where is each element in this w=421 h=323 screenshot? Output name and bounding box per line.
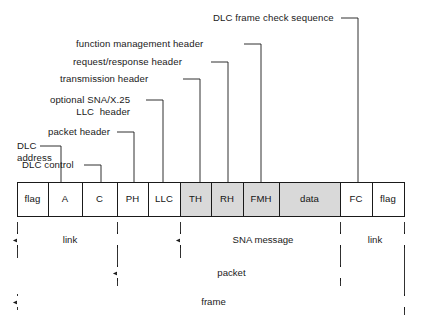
callout-label-request-response-header: request/response header bbox=[73, 56, 182, 68]
bracket-label-link-left: link bbox=[17, 234, 123, 245]
callout-label-line: request/response header bbox=[73, 56, 182, 68]
bracket-label-frame: frame bbox=[17, 296, 410, 307]
frame-field-label-fmh: FMH bbox=[243, 193, 279, 204]
frame-field-label-rh: RH bbox=[211, 193, 243, 204]
callout-label-line: DLC frame check sequence bbox=[213, 12, 334, 24]
figure-canvas: flagACPHLLCTHRHFMHdataFCflag DLCaddressD… bbox=[0, 0, 421, 323]
frame-field-label-c: C bbox=[82, 193, 117, 204]
bracket-label-text: packet bbox=[213, 267, 249, 278]
bracket-label-text: SNA message bbox=[229, 234, 298, 245]
bracket-label-text: link bbox=[59, 234, 81, 245]
callout-label-transmission-header: transmission header bbox=[60, 73, 148, 85]
leader-line-dlc-control bbox=[84, 165, 101, 182]
callout-label-packet-header: packet header bbox=[48, 126, 110, 138]
callout-label-line: function management header bbox=[76, 38, 203, 50]
bracket-label-text: frame bbox=[197, 296, 230, 307]
frame-field-label-data: data bbox=[279, 193, 340, 204]
callout-label-dlc-frame-check-sequence: DLC frame check sequence bbox=[213, 12, 334, 24]
callout-label-line: LLC header bbox=[50, 106, 130, 118]
bracket-label-text: link bbox=[364, 234, 386, 245]
callout-label-line: DLC bbox=[17, 140, 52, 152]
callout-label-dlc-control: DLC control bbox=[22, 159, 74, 171]
callout-label-line: packet header bbox=[48, 126, 110, 138]
leader-line-dlc-frame-check-sequence bbox=[341, 18, 358, 182]
callout-label-line: transmission header bbox=[60, 73, 148, 85]
bracket-label-link-right: link bbox=[340, 234, 410, 245]
frame-field-label-fc: FC bbox=[340, 193, 372, 204]
leader-line-transmission-header bbox=[183, 79, 200, 182]
frame-field-label-th: TH bbox=[180, 193, 211, 204]
frame-field-label-flag-right: flag bbox=[372, 193, 404, 204]
callout-label-line: DLC control bbox=[22, 159, 74, 171]
frame-field-label-llc: LLC bbox=[148, 193, 180, 204]
bracket-label-sna-message: SNA message bbox=[180, 234, 346, 245]
leader-line-packet-header bbox=[117, 132, 134, 182]
callout-label-optional-sna-x25-llc-header: optional SNA/X.25LLC header bbox=[50, 94, 130, 117]
frame-field-label-ph: PH bbox=[117, 193, 148, 204]
bracket-label-packet: packet bbox=[117, 267, 346, 278]
callout-label-line: optional SNA/X.25 bbox=[50, 94, 130, 106]
leader-line-request-response-header bbox=[211, 62, 228, 182]
frame-field-label-a: A bbox=[48, 193, 82, 204]
frame-field-label-flag-left: flag bbox=[17, 193, 48, 204]
leader-line-optional-sna-x25-llc-header bbox=[146, 100, 163, 182]
leader-line-function-management-header bbox=[244, 44, 261, 182]
callout-label-function-management-header: function management header bbox=[76, 38, 203, 50]
